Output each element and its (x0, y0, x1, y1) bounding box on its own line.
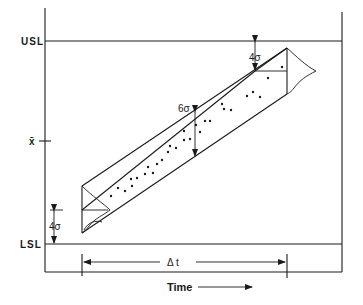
lower-margin-label: 4σ (49, 221, 62, 232)
time-axis: Time (167, 281, 252, 293)
upper-margin-label: 4σ (249, 52, 262, 63)
delta-t-bracket: Δ t (82, 254, 287, 278)
process-drift-diagram: USL LSL x̄ (0, 0, 363, 305)
time-label: Time (167, 281, 192, 293)
band-lower-edge (82, 94, 287, 233)
process-band (82, 48, 316, 233)
xbar-label: x̄ (29, 136, 36, 147)
lower-margin-arrow: 4σ (49, 210, 63, 243)
spread-label: 6σ (178, 103, 191, 114)
sample-points (110, 66, 283, 197)
delta-t-label: Δ t (167, 257, 179, 268)
right-distribution-curve (287, 48, 316, 94)
band-upper-edge (82, 48, 287, 186)
usl-label: USL (21, 36, 44, 47)
lsl-label: LSL (20, 239, 42, 250)
band-center-line (82, 71, 255, 210)
spread-arrow: 6σ (178, 103, 195, 156)
